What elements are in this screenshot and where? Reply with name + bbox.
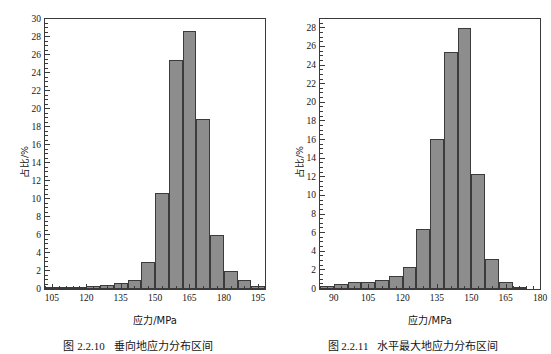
axes-frame-right: 0246810121416182022242628 90105120135150…	[319, 18, 541, 290]
y-tick-minor	[320, 260, 323, 261]
y-tick-minor	[45, 248, 48, 249]
y-tick-major	[320, 27, 325, 28]
y-tick-major	[320, 176, 325, 177]
y-tick-minor	[320, 130, 323, 131]
y-tick-major	[45, 126, 50, 127]
y-tick-minor	[320, 148, 323, 149]
x-tick-minor	[382, 286, 383, 289]
x-tick-major	[52, 284, 53, 289]
x-tick-minor	[320, 286, 321, 289]
x-tick-label: 135	[114, 294, 128, 304]
y-tick-minor	[45, 27, 48, 28]
figure-page: · · · ·· · ··· · ··· ·· ·· · ··· ··· · ·…	[0, 0, 551, 354]
y-tick-minor	[45, 225, 48, 226]
histogram-bar	[196, 119, 210, 289]
x-tick-minor	[327, 286, 328, 289]
x-tick-label: 105	[361, 294, 375, 304]
y-tick-major	[320, 139, 325, 140]
y-tick-label: 4	[311, 247, 316, 257]
y-tick-minor	[320, 218, 323, 219]
x-tick-minor	[141, 286, 142, 289]
y-tick-label: 22	[307, 79, 317, 89]
y-tick-label: 30	[32, 14, 42, 24]
y-tick-minor	[320, 51, 323, 52]
x-tick-minor	[519, 286, 520, 289]
y-tick-major	[320, 251, 325, 252]
x-tick-minor	[513, 286, 514, 289]
x-tick-minor	[451, 286, 452, 289]
y-tick-minor	[320, 97, 323, 98]
x-tick-minor	[499, 286, 500, 289]
y-tick-major	[45, 252, 50, 253]
y-tick-label: 18	[32, 122, 42, 132]
y-tick-minor	[45, 158, 48, 159]
y-tick-minor	[320, 37, 323, 38]
y-tick-minor	[320, 162, 323, 163]
x-tick-major	[368, 284, 369, 289]
y-tick-minor	[320, 241, 323, 242]
caption-left: 图 2.2.10垂向地应力分布区间	[2, 337, 274, 353]
y-tick-label: 16	[307, 135, 317, 145]
y-tick-minor	[45, 122, 48, 123]
y-tick-label: 2	[36, 266, 41, 276]
x-tick-major	[121, 284, 122, 289]
x-tick-minor	[423, 286, 424, 289]
y-tick-minor	[45, 32, 48, 33]
x-tick-minor	[478, 286, 479, 289]
y-tick-major	[45, 18, 50, 19]
histogram-bar	[416, 229, 430, 289]
y-tick-minor	[45, 266, 48, 267]
y-tick-minor	[320, 209, 323, 210]
x-tick-label: 165	[182, 294, 196, 304]
y-tick-minor	[45, 171, 48, 172]
x-tick-minor	[416, 286, 417, 289]
x-tick-minor	[389, 286, 390, 289]
y-tick-label: 20	[307, 98, 317, 108]
y-tick-label: 28	[307, 24, 317, 34]
x-tick-minor	[203, 286, 204, 289]
y-tick-major	[45, 162, 50, 163]
y-tick-label: 8	[36, 212, 41, 222]
y-tick-minor	[320, 111, 323, 112]
y-tick-minor	[45, 207, 48, 208]
y-tick-label: 20	[32, 104, 42, 114]
x-tick-label: 90	[329, 294, 339, 304]
y-tick-label: 22	[32, 86, 42, 96]
y-tick-label: 28	[32, 32, 42, 42]
y-tick-minor	[320, 88, 323, 89]
y-tick-label: 4	[36, 248, 41, 258]
x-tick-label: 120	[79, 294, 93, 304]
y-tick-minor	[45, 221, 48, 222]
y-tick-minor	[45, 176, 48, 177]
x-tick-minor	[73, 286, 74, 289]
y-tick-minor	[45, 63, 48, 64]
y-tick-minor	[320, 190, 323, 191]
x-tick-minor	[238, 286, 239, 289]
y-tick-minor	[45, 81, 48, 82]
histogram-bar	[458, 28, 472, 289]
y-tick-minor	[45, 149, 48, 150]
x-tick-major	[86, 284, 87, 289]
x-tick-major	[224, 284, 225, 289]
x-tick-minor	[231, 286, 232, 289]
x-tick-minor	[341, 286, 342, 289]
y-tick-label: 12	[307, 173, 317, 183]
histogram-bar	[169, 60, 183, 289]
x-tick-minor	[183, 286, 184, 289]
y-tick-minor	[320, 60, 323, 61]
y-tick-major	[320, 46, 325, 47]
x-tick-minor	[217, 286, 218, 289]
y-tick-minor	[45, 239, 48, 240]
y-tick-major	[45, 144, 50, 145]
y-tick-minor	[45, 113, 48, 114]
y-tick-minor	[320, 18, 323, 19]
y-tick-label: 0	[311, 284, 316, 294]
y-tick-major	[320, 195, 325, 196]
y-tick-label: 2	[311, 266, 316, 276]
x-tick-minor	[396, 286, 397, 289]
x-tick-minor	[134, 286, 135, 289]
x-tick-minor	[148, 286, 149, 289]
x-tick-major	[506, 284, 507, 289]
caption-number-left: 图 2.2.10	[63, 340, 104, 352]
y-tick-minor	[320, 223, 323, 224]
